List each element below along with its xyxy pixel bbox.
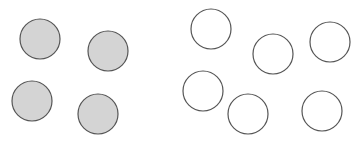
- filled-circle-group: [12, 19, 128, 134]
- empty-circle: [228, 94, 268, 134]
- empty-circle: [191, 9, 231, 49]
- empty-circle-group: [183, 9, 350, 134]
- empty-circle: [310, 22, 350, 62]
- empty-circle: [183, 71, 223, 111]
- filled-circle: [12, 81, 52, 121]
- empty-circle: [253, 34, 293, 74]
- filled-circle: [20, 19, 60, 59]
- filled-circle: [78, 94, 118, 134]
- empty-circle: [302, 91, 342, 131]
- circles-svg: [0, 0, 360, 141]
- circle-diagram: [0, 0, 360, 141]
- filled-circle: [88, 31, 128, 71]
